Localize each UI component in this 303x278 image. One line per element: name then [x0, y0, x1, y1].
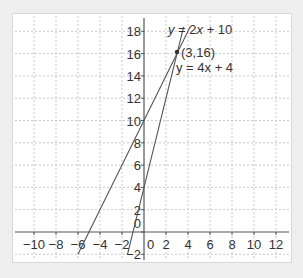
x-tick-label: −4 — [93, 237, 108, 252]
x-tick-label: 8 — [228, 237, 235, 252]
x-tick-label: 0 — [147, 237, 154, 252]
intersection-point — [175, 50, 179, 54]
y-tick-label: 6 — [134, 158, 141, 173]
x-tick-label: −10 — [23, 237, 45, 252]
x-tick-label: −8 — [49, 237, 64, 252]
x-tick-label: 6 — [206, 237, 213, 252]
x-tick-label: 12 — [269, 237, 283, 252]
y-tick-label: 10 — [127, 114, 141, 129]
intersection-label: (3,16) — [181, 45, 215, 60]
y-tick-label: 4 — [134, 180, 141, 195]
axes — [15, 18, 289, 260]
y-tick-label: 16 — [127, 47, 141, 62]
y-tick-label: 14 — [127, 69, 141, 84]
y-tick-label: 12 — [127, 91, 141, 106]
y-tick-label: 18 — [127, 24, 141, 39]
x-tick-label: 4 — [184, 237, 191, 252]
line-chart: −10−8−6−4−2024681012−2024681012141618 y … — [0, 0, 303, 278]
grid-lines — [15, 16, 289, 260]
annotations: y = 2x + 10 (3,16) y = 4x + 4 — [167, 22, 233, 75]
equation-label-4x-plus-4: y = 4x + 4 — [176, 60, 233, 75]
equation-label-2x-plus-10: y = 2x + 10 — [167, 22, 232, 37]
x-tick-label: 10 — [247, 237, 261, 252]
x-tick-label: 2 — [162, 237, 169, 252]
